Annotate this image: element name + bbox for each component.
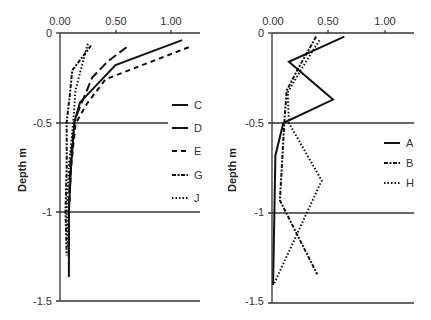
- series-line-c: [69, 40, 182, 277]
- left-y-tick-1: -0.5: [33, 117, 52, 129]
- legend-item-e: E: [172, 145, 201, 157]
- right-axes: [268, 30, 414, 303]
- left-y-tick-0: 0: [46, 27, 52, 39]
- left-series-group: [66, 40, 189, 277]
- left-x-tick-2: 1.00: [160, 15, 181, 27]
- legend-item-h: H: [384, 177, 414, 189]
- series-line-d: [69, 47, 127, 264]
- legend-item-b: B: [384, 157, 413, 169]
- svg-text:H: H: [406, 177, 414, 189]
- svg-text:A: A: [406, 137, 414, 149]
- right-series-group: [273, 37, 344, 285]
- left-panel: Depth m 0.00 0.50 1.00 0 -0.5 -1 -1.5 C: [16, 15, 203, 307]
- figure: Depth m 0.00 0.50 1.00 0 -0.5 -1 -1.5 C: [0, 0, 431, 320]
- svg-text:G: G: [194, 169, 203, 181]
- series-line-a: [273, 37, 344, 285]
- svg-text:E: E: [194, 145, 201, 157]
- right-y-tick-3: -1.5: [245, 295, 264, 307]
- svg-text:B: B: [406, 157, 413, 169]
- left-x-tick-0: 0.00: [49, 15, 70, 27]
- left-x-tick-1: 0.50: [105, 15, 126, 27]
- left-legend: C D E G J: [172, 99, 203, 204]
- right-x-tick-0: 0.00: [262, 15, 283, 27]
- left-y-tick-2: -1: [42, 206, 52, 218]
- svg-text:D: D: [194, 122, 202, 134]
- right-y-tick-2: -1: [254, 206, 264, 218]
- svg-text:C: C: [194, 99, 202, 111]
- legend-item-j: J: [172, 192, 200, 204]
- right-y-tick-1: -0.5: [245, 117, 264, 129]
- legend-item-g: G: [172, 169, 203, 181]
- series-line-e: [69, 47, 189, 255]
- right-y-axis-label: Depth m: [226, 148, 238, 192]
- legend-item-c: C: [172, 99, 202, 111]
- right-y-tick-0: 0: [258, 27, 264, 39]
- left-y-axis-label: Depth m: [16, 148, 28, 192]
- legend-item-d: D: [172, 122, 202, 134]
- legend-item-a: A: [384, 137, 414, 149]
- series-line-b: [280, 37, 317, 275]
- right-x-tick-1: 0.50: [317, 15, 338, 27]
- right-legend: A B H: [384, 137, 414, 189]
- right-x-tick-2: 1.00: [374, 15, 395, 27]
- svg-text:J: J: [194, 192, 200, 204]
- left-y-tick-3: -1.5: [33, 295, 52, 307]
- right-panel: Depth m 0.00 0.50 1.00 0 -0.5 -1 -1.5 A: [226, 15, 414, 307]
